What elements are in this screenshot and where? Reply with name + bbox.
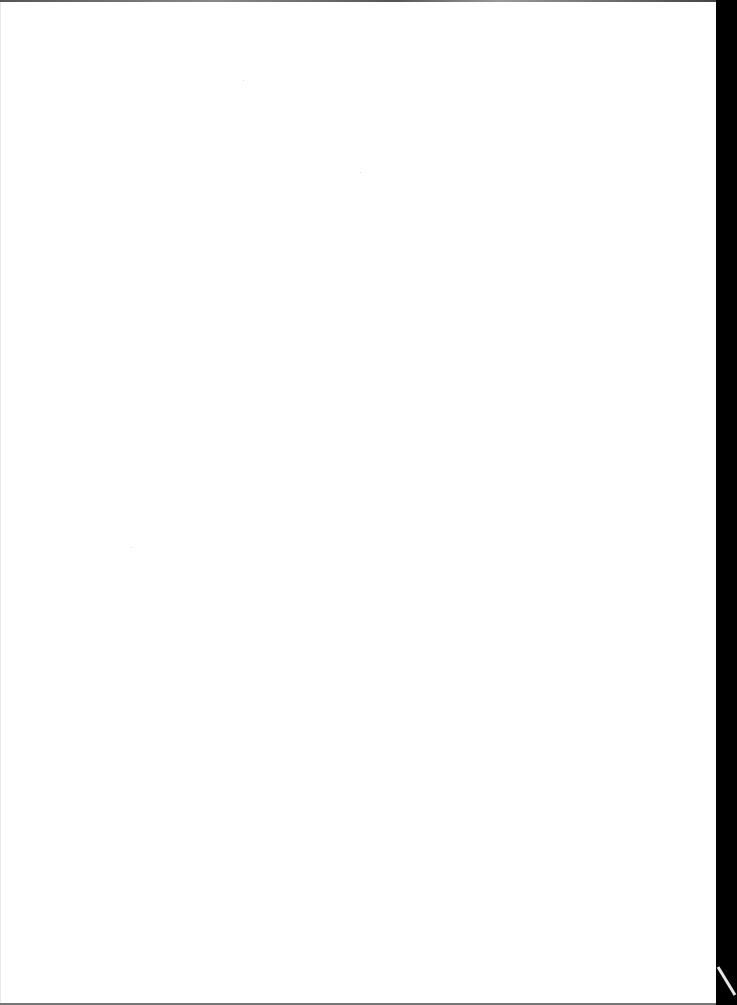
scanner-border	[716, 0, 737, 1005]
dust-speck	[131, 547, 132, 548]
dust-speck	[360, 172, 361, 173]
blank-scanned-page	[0, 0, 716, 1005]
page-curl-icon	[716, 955, 737, 1005]
dust-speck	[243, 80, 244, 81]
page-top-edge	[0, 0, 716, 2]
